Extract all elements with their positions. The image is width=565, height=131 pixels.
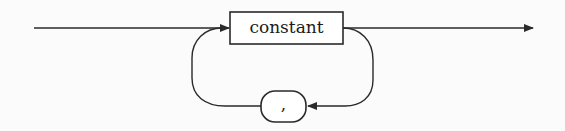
nonterminal-constant: constant bbox=[230, 12, 343, 44]
terminal-label: , bbox=[281, 94, 286, 114]
syntax-diagram: constant , bbox=[0, 0, 565, 131]
terminal-comma: , bbox=[261, 91, 306, 122]
nonterminal-label: constant bbox=[249, 17, 323, 37]
